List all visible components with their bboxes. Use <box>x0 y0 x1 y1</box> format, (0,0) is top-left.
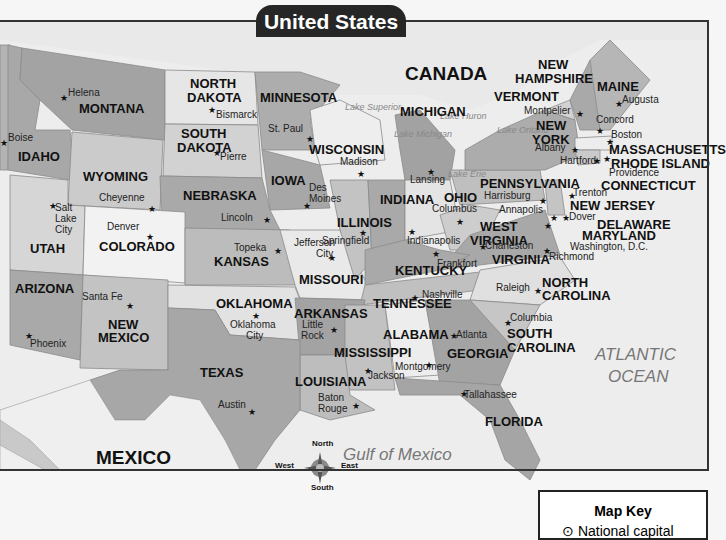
map-key: Map Key ⊙ National capital <box>538 490 708 540</box>
capital-label: Columbia <box>510 313 552 324</box>
water-label: ATLANTIC <box>595 346 676 364</box>
capital-star-icon: ★ <box>330 326 338 335</box>
capital-label: Tallahassee <box>464 390 517 401</box>
state-label: VERMONT <box>494 90 559 104</box>
capital-label: Frankfort <box>437 259 477 270</box>
capital-label: Concord <box>596 115 634 126</box>
capital-label: Annapolis <box>499 205 543 216</box>
capital-star-icon: ★ <box>0 139 8 148</box>
capital-star-icon: ★ <box>357 170 365 179</box>
capital-star-icon: ★ <box>479 243 487 252</box>
state-label: CAROLINA <box>507 341 576 355</box>
capital-star-icon: ★ <box>352 402 360 411</box>
capital-label: St. Paul <box>268 124 303 135</box>
state-label: GEORGIA <box>447 347 508 361</box>
capital-label: Nashville <box>422 290 463 301</box>
capital-label: Oklahoma <box>230 320 276 331</box>
map-title: United States <box>256 5 406 37</box>
capital-label: Helena <box>68 88 100 99</box>
capital-label: Columbus <box>432 204 477 215</box>
capital-star-icon: ★ <box>213 149 221 158</box>
capital-label: Little <box>302 320 323 331</box>
capital-star-icon: ★ <box>60 94 68 103</box>
compass-south: South <box>311 484 334 492</box>
capital-star-icon: ★ <box>411 294 419 303</box>
capital-label: Austin <box>218 400 246 411</box>
state-label: UTAH <box>30 242 65 256</box>
capital-label: Providence <box>609 168 659 179</box>
state-label: TEXAS <box>200 366 243 380</box>
capital-label: Raleigh <box>496 283 530 294</box>
capital-label: Indianapolis <box>407 236 460 247</box>
capital-label: Denver <box>107 222 139 233</box>
state-label: OKLAHOMA <box>216 297 293 311</box>
capital-star-icon: ★ <box>252 312 260 321</box>
capital-star-icon: ★ <box>562 214 570 223</box>
state-label: MEXICO <box>98 331 149 345</box>
capital-star-icon: ★ <box>364 367 372 376</box>
capital-star-icon: ★ <box>432 250 440 259</box>
capital-star-icon: ★ <box>615 100 623 109</box>
state-label: SOUTH <box>181 127 227 141</box>
state-label: WEST <box>480 220 518 234</box>
capital-star-icon: ★ <box>148 205 156 214</box>
compass-east: East <box>341 462 358 470</box>
state-label: NEW <box>536 119 566 133</box>
capital-label: Lake <box>55 214 77 225</box>
state-label: KANSAS <box>214 255 269 269</box>
state-label: CAROLINA <box>542 289 611 303</box>
capital-star-icon: ★ <box>408 228 416 237</box>
state-label: ARIZONA <box>15 282 74 296</box>
capital-star-icon: ★ <box>576 110 584 119</box>
capital-label: Pierre <box>220 152 247 163</box>
state-label: NORTH <box>190 77 236 91</box>
capital-label: Augusta <box>622 95 659 106</box>
compass-rose: North West East South <box>275 440 365 500</box>
state-label: MISSISSIPPI <box>334 346 411 360</box>
capital-label: Topeka <box>234 243 266 254</box>
lake-label: Lake Superior <box>345 103 401 112</box>
capital-label: Phoenix <box>30 339 66 350</box>
capital-label: Bismarck <box>216 110 257 121</box>
state-label: NEBRASKA <box>183 189 257 203</box>
capital-star-icon: ★ <box>603 155 611 164</box>
capital-label: Richmond <box>549 252 594 263</box>
capital-label: Dover <box>569 212 596 223</box>
country-label: CANADA <box>405 64 487 84</box>
capital-label: Des <box>309 183 327 194</box>
capital-star-icon: ★ <box>504 319 512 328</box>
capital-star-icon: ★ <box>328 254 336 263</box>
capital-label: Boston <box>611 130 642 141</box>
capital-star-icon: ★ <box>460 390 468 399</box>
capital-label: Harrisburg <box>484 191 531 202</box>
capital-label: Trenton <box>573 188 607 199</box>
capital-star-icon: ★ <box>450 332 458 341</box>
state-label: SOUTH <box>507 327 553 341</box>
capital-star-icon: ★ <box>248 408 256 417</box>
capital-label: Baton <box>318 393 344 404</box>
capital-star-icon: ★ <box>49 202 57 211</box>
compass-star-icon <box>300 450 340 486</box>
capital-star-icon: ★ <box>593 157 601 166</box>
capital-star-icon: ★ <box>274 247 282 256</box>
capital-label: Rock <box>301 331 324 342</box>
capital-star-icon: ★ <box>543 247 551 256</box>
capital-star-icon: ★ <box>306 135 314 144</box>
capital-star-icon: ★ <box>534 287 542 296</box>
compass-north: North <box>312 440 333 448</box>
capital-star-icon: ★ <box>146 233 154 242</box>
capital-star-icon: ★ <box>263 216 271 225</box>
capital-label: Madison <box>340 157 378 168</box>
capital-star-icon: ★ <box>427 168 435 177</box>
capital-star-icon: ★ <box>25 332 33 341</box>
state-label: ALABAMA <box>383 328 449 342</box>
capital-label: Boise <box>8 133 33 144</box>
capital-label: Jefferson <box>294 238 335 249</box>
state-label: MONTANA <box>79 102 144 116</box>
map-key-item: ⊙ National capital <box>562 523 706 539</box>
capital-star-icon: ★ <box>568 192 576 201</box>
capital-label: City <box>246 331 263 342</box>
state-label: WYOMING <box>83 170 148 184</box>
state-label: PENNSYLVANIA <box>480 177 580 191</box>
capital-star-icon: ★ <box>456 218 464 227</box>
